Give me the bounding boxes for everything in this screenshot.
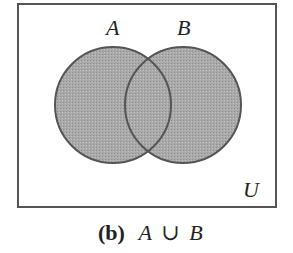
- caption-tag: (b): [98, 220, 125, 245]
- venn-diagram: A B U (b) A ∪ B: [0, 0, 293, 253]
- caption-union-operator: ∪: [161, 220, 179, 245]
- set-b-label: B: [177, 15, 190, 40]
- universe-label: U: [243, 177, 261, 202]
- set-a-label: A: [104, 15, 120, 40]
- caption-set-a: A: [136, 220, 152, 245]
- caption-set-b: B: [189, 220, 202, 245]
- caption: (b) A ∪ B: [98, 220, 203, 245]
